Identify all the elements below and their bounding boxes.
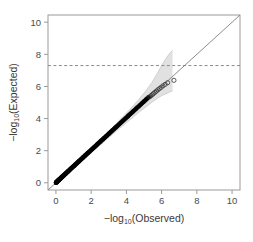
y-tick-label: 4: [36, 113, 41, 124]
y-tick-label: 2: [36, 145, 41, 156]
qq-plot-figure: 02468100246810−log10(Observed)−log10(Exp…: [0, 0, 253, 242]
y-tick-label: 10: [30, 17, 41, 28]
y-tick-label: 8: [36, 49, 41, 60]
y-tick-label: 0: [36, 177, 41, 188]
y-axis-title: −log10(Expected): [7, 63, 20, 142]
x-tick-label: 6: [159, 195, 164, 206]
series-bulk-points: [54, 95, 151, 185]
x-tick-label: 8: [194, 195, 199, 206]
x-tick-label: 2: [89, 195, 94, 206]
x-tick-label: 0: [53, 195, 58, 206]
qq-plot-canvas: 02468100246810−log10(Observed)−log10(Exp…: [0, 0, 253, 242]
x-tick-label: 10: [227, 195, 238, 206]
y-tick-label: 6: [36, 81, 41, 92]
confidence-band-area: [56, 50, 173, 182]
confidence-band-upper: [56, 50, 173, 181]
x-tick-label: 4: [124, 195, 129, 206]
x-axis-title: −log10(Observed): [104, 212, 184, 225]
